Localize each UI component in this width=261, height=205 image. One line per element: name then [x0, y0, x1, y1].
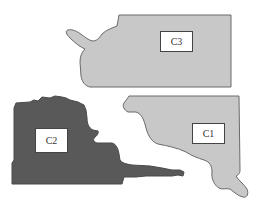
region-diagram: C3 C2 C1 [0, 0, 261, 205]
region-c3-shape [66, 15, 231, 87]
region-c1-label: C1 [203, 128, 215, 139]
region-c3-label: C3 [171, 36, 183, 47]
region-c2-label: C2 [46, 135, 58, 146]
region-c1-shape [123, 96, 248, 197]
region-c1: C1 [123, 96, 248, 197]
region-c3: C3 [66, 15, 231, 87]
